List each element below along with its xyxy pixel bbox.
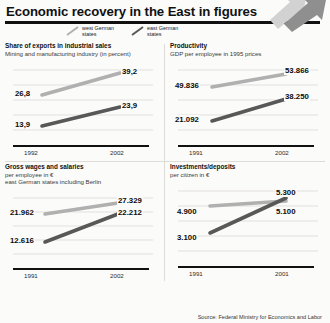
- series-line-east-exports: [42, 107, 120, 126]
- axis-rule-exports: [13, 145, 149, 147]
- axis-rule-investments: [178, 266, 314, 268]
- value-west-start-productivity: 49.836: [174, 81, 200, 90]
- value-west-start-investments: 4.900: [176, 207, 198, 216]
- chart-title-productivity: Productivity: [170, 42, 325, 50]
- chart-panel-investments: Investments/deposits per citizen in € 4.…: [170, 163, 325, 283]
- value-east-start-productivity: 21.092: [174, 115, 200, 124]
- chart-subtitle2-wages: east German states including Berlin: [5, 178, 160, 185]
- value-west-end-productivity: 53.866: [284, 66, 310, 75]
- chart-title-wages: Gross wages and salaries: [5, 163, 160, 171]
- value-east-start-wages: 12.616: [9, 236, 35, 245]
- value-west-end-exports: 39,2: [121, 67, 138, 76]
- legend: west German states east German states: [0, 25, 330, 42]
- legend-label-west: west German states: [82, 25, 128, 37]
- chart-panel-exports: Share of exports in industrial sales Min…: [5, 42, 160, 162]
- header: Economic recovery in the East in figures: [0, 0, 330, 24]
- legend-item-east: east German states: [131, 25, 193, 37]
- header-divider: [5, 21, 320, 24]
- chart-plot-investments: 4.900 5.100 3.100 5.300: [170, 185, 325, 263]
- axis-year-start-exports: 1992: [24, 149, 38, 156]
- chart-axis-investments: 1991 2001: [170, 266, 325, 278]
- vertical-divider: [164, 44, 165, 281]
- axis-rule-productivity: [178, 145, 314, 147]
- chart-axis-wages: 1991 2002: [5, 268, 160, 280]
- value-west-end-investments: 5.100: [275, 207, 297, 216]
- chart-subtitle-exports: Mining and manufacturing industry (in pe…: [5, 50, 160, 57]
- series-line-west-wages: [45, 203, 118, 214]
- chart-axis-exports: 1992 2002: [5, 145, 160, 157]
- value-east-start-investments: 3.100: [176, 233, 198, 242]
- series-line-east-wages: [45, 214, 118, 242]
- source-note: Source: Federal Ministry for Economics a…: [198, 314, 322, 320]
- value-east-end-exports: 23,9: [121, 101, 138, 110]
- legend-item-west: west German states: [66, 25, 128, 37]
- chart-subtitle-productivity: GDP per employee in 1995 prices: [170, 50, 325, 57]
- chart-title-investments: Investments/deposits: [170, 163, 325, 171]
- axis-year-start-productivity: 1991: [189, 149, 203, 156]
- axis-year-end-exports: 2002: [110, 149, 124, 156]
- axis-year-end-productivity: 2002: [275, 149, 289, 156]
- legend-label-east: east German states: [147, 25, 193, 37]
- chart-plot-productivity: 49.836 53.866 21.092 38.250: [170, 64, 325, 142]
- series-line-west-exports: [42, 73, 120, 95]
- chart-axis-productivity: 1991 2002: [170, 145, 325, 157]
- axis-year-end-wages: 2002: [110, 272, 124, 279]
- infographic-root: Economic recovery in the East in figures…: [0, 0, 330, 323]
- gridlines-investments: [178, 191, 318, 251]
- series-line-east-productivity: [212, 99, 286, 121]
- value-east-start-exports: 13,9: [14, 120, 31, 129]
- page-title: Economic recovery in the East in figures: [6, 3, 324, 20]
- chart-plot-wages: 21.962 27.329 12.616 22.212: [5, 192, 160, 263]
- chart-subtitle-investments: per citizen in €: [170, 171, 325, 178]
- value-west-start-wages: 21.962: [9, 208, 35, 217]
- legend-line-icon-west: [66, 25, 79, 37]
- gridlines-exports: [13, 70, 153, 130]
- axis-rule-wages: [13, 268, 149, 270]
- chart-panel-wages: Gross wages and salaries per employee in…: [5, 163, 160, 283]
- value-east-end-wages: 22.212: [117, 208, 143, 217]
- charts-grid: Share of exports in industrial sales Min…: [0, 42, 330, 323]
- chart-plot-exports: 26,8 39,2 13,9 23,9: [5, 64, 160, 142]
- chart-title-exports: Share of exports in industrial sales: [5, 42, 160, 50]
- value-west-start-exports: 26,8: [14, 89, 31, 98]
- axis-year-start-wages: 1991: [24, 272, 38, 279]
- value-west-end-wages: 27.329: [117, 196, 143, 205]
- axis-year-end-investments: 2001: [275, 270, 289, 277]
- chart-subtitle-wages: per employee in €: [5, 171, 160, 178]
- value-east-end-investments: 5.300: [275, 188, 297, 197]
- value-east-end-productivity: 38.250: [284, 92, 310, 101]
- axis-year-start-investments: 1991: [189, 270, 203, 277]
- legend-line-icon-east: [131, 25, 144, 37]
- chart-panel-productivity: Productivity GDP per employee in 1995 pr…: [170, 42, 325, 162]
